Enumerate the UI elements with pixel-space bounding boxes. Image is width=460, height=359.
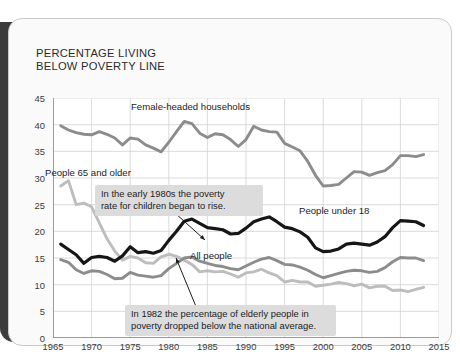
x-tick-label: 1965 bbox=[43, 341, 64, 352]
x-tick-label: 1975 bbox=[120, 341, 141, 352]
x-tick-label: 2005 bbox=[351, 341, 372, 352]
annotation-children-poverty: In the early 1980s the poverty rate for … bbox=[95, 185, 263, 216]
series-label-female-headed: Female-headed households bbox=[131, 101, 250, 112]
y-tick-label: 15 bbox=[35, 253, 45, 264]
chart-svg bbox=[53, 98, 439, 338]
y-tick-label: 35 bbox=[35, 146, 45, 157]
y-axis-tick-labels: 051015202530354045 bbox=[9, 98, 49, 338]
y-tick-label: 20 bbox=[35, 226, 45, 237]
y-tick-label: 5 bbox=[40, 306, 45, 317]
x-tick-label: 2010 bbox=[390, 341, 411, 352]
x-axis-tick-labels: 1965197019751980198519901995200020052010… bbox=[53, 341, 453, 357]
x-tick-label: 1985 bbox=[197, 341, 218, 352]
y-tick-label: 40 bbox=[35, 119, 45, 130]
chart-title: PERCENTAGE LIVING BELOW POVERTY LINE bbox=[36, 47, 165, 74]
x-tick-label: 2015 bbox=[429, 341, 450, 352]
x-tick-label: 1990 bbox=[236, 341, 257, 352]
series-label-all-people: All people bbox=[190, 250, 232, 261]
figure-card: PERCENTAGE LIVING BELOW POVERTY LINE 051… bbox=[8, 18, 452, 346]
plot-area bbox=[53, 98, 439, 338]
x-tick-label: 1980 bbox=[158, 341, 179, 352]
x-tick-label: 1970 bbox=[81, 341, 102, 352]
page-root: PERCENTAGE LIVING BELOW POVERTY LINE 051… bbox=[0, 0, 460, 359]
annotation-elderly-poverty: In 1982 the percentage of elderly people… bbox=[125, 305, 336, 336]
y-tick-label: 10 bbox=[35, 279, 45, 290]
series-label-under-18: People under 18 bbox=[299, 205, 369, 216]
y-tick-label: 45 bbox=[35, 93, 45, 104]
y-tick-label: 25 bbox=[35, 199, 45, 210]
y-tick-label: 30 bbox=[35, 173, 45, 184]
x-tick-label: 1995 bbox=[274, 341, 295, 352]
series-label-elderly: People 65 and older bbox=[45, 167, 131, 178]
x-tick-label: 2000 bbox=[313, 341, 334, 352]
